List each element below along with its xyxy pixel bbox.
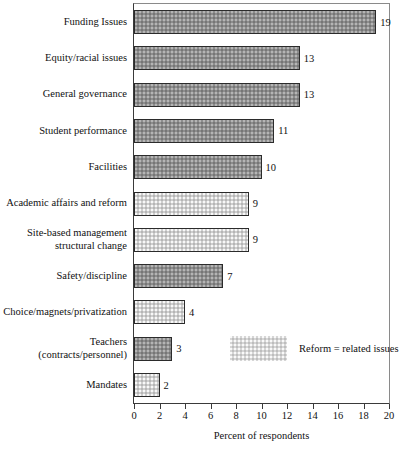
category-label: Teachers (contracts/personnel) (0, 331, 127, 367)
bar-fill (134, 119, 274, 143)
x-tick (185, 404, 186, 409)
x-axis-title: Percent of respondents (133, 430, 390, 441)
bar (134, 228, 249, 252)
category-label: Choice/magnets/privatization (0, 294, 127, 330)
bar-fill (134, 300, 185, 324)
legend-swatch-reform (230, 336, 287, 361)
bar-fill (134, 10, 376, 34)
category-label: Student performance (0, 113, 127, 149)
bar-row: Choice/magnets/privatization4 (0, 294, 408, 330)
x-tick (313, 404, 314, 409)
x-tick (287, 404, 288, 409)
bar-value-label: 11 (274, 119, 288, 143)
x-tick (211, 404, 212, 409)
bar-value-label: 7 (223, 264, 232, 288)
bar-value-label: 19 (376, 10, 391, 34)
bar (134, 373, 160, 397)
bar-value-label: 4 (185, 300, 194, 324)
x-tick (338, 404, 339, 409)
x-tick (236, 404, 237, 409)
bar-row: Facilities10 (0, 149, 408, 185)
category-label: Facilities (0, 149, 127, 185)
x-tick (134, 404, 135, 409)
category-label: Safety/discipline (0, 258, 127, 294)
category-label: Site-based management structural change (0, 222, 127, 258)
bar (134, 192, 249, 216)
bar-value-label: 3 (172, 337, 181, 361)
x-tick (389, 404, 390, 409)
bar-row: Funding Issues19 (0, 4, 408, 40)
bar-value-label: 13 (300, 46, 315, 70)
bar-row: Safety/discipline7 (0, 258, 408, 294)
bar-fill (134, 264, 223, 288)
bar-row: Equity/racial issues13 (0, 40, 408, 76)
bar-row: Student performance11 (0, 113, 408, 149)
bar-fill (134, 192, 249, 216)
bar-value-label: 2 (160, 373, 169, 397)
bar-fill (134, 337, 172, 361)
bar (134, 10, 376, 34)
bar-value-label: 10 (262, 155, 277, 179)
category-label: General governance (0, 77, 127, 113)
x-tick (262, 404, 263, 409)
bar-fill (134, 373, 160, 397)
category-label: Mandates (0, 367, 127, 403)
bar (134, 337, 172, 361)
bar-chart: Funding Issues19Equity/racial issues13Ge… (0, 0, 408, 454)
x-tick (364, 404, 365, 409)
chart-legend: Reform = related issues (230, 336, 399, 361)
category-label: Equity/racial issues (0, 40, 127, 76)
x-axis-tick-labels: 02468101214161820 (133, 410, 390, 426)
bar (134, 119, 274, 143)
bar-row: General governance13 (0, 77, 408, 113)
bar (134, 300, 185, 324)
bar-value-label: 9 (249, 228, 258, 252)
bar-row: Mandates2 (0, 367, 408, 403)
bar-value-label: 13 (300, 83, 315, 107)
bar-fill (134, 83, 300, 107)
bar-fill (134, 155, 262, 179)
category-label: Funding Issues (0, 4, 127, 40)
bar-row: Site-based management structural change9 (0, 222, 408, 258)
bar-fill (134, 228, 249, 252)
bar (134, 46, 300, 70)
bar-row: Academic affairs and reform9 (0, 186, 408, 222)
bar-value-label: 9 (249, 192, 258, 216)
x-tick (160, 404, 161, 409)
category-label: Academic affairs and reform (0, 186, 127, 222)
bar-fill (134, 46, 300, 70)
bar (134, 264, 223, 288)
bar (134, 83, 300, 107)
legend-label-reform: Reform = related issues (299, 343, 399, 354)
bar (134, 155, 262, 179)
x-tick-label: 20 (374, 410, 404, 421)
